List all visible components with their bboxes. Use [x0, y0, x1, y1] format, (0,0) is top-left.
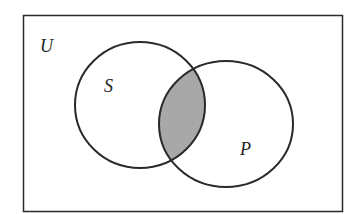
set-p-label: P — [239, 139, 251, 159]
universe-label: U — [40, 36, 54, 56]
set-s-label: S — [104, 76, 113, 96]
venn-diagram: U S P — [0, 0, 350, 214]
